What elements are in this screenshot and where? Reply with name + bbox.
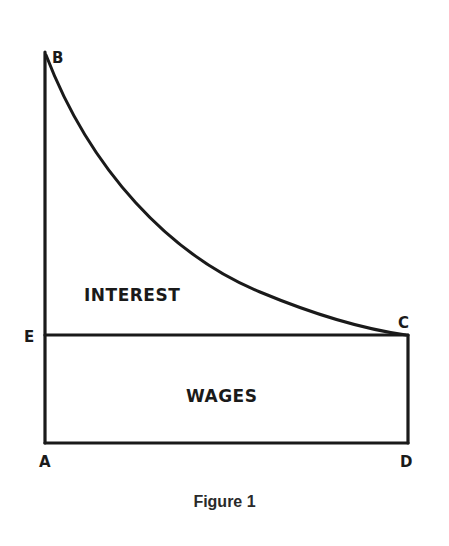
region-label-interest: INTEREST — [84, 285, 180, 305]
figure-caption: Figure 1 — [0, 493, 449, 511]
label-b: B — [52, 49, 63, 67]
label-c: C — [398, 314, 409, 332]
interest-wages-diagram: B E C A D INTEREST WAGES — [0, 0, 449, 546]
region-label-wages: WAGES — [186, 386, 257, 406]
label-a: A — [39, 453, 51, 471]
label-e: E — [24, 328, 34, 346]
label-d: D — [400, 453, 412, 471]
